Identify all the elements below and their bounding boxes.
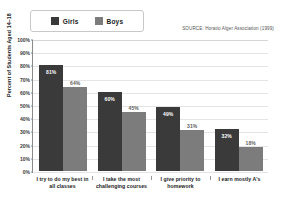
boys-swatch-icon bbox=[95, 17, 103, 25]
bar-girls[interactable]: 81% bbox=[39, 65, 63, 171]
bar-groups: 81%64%60%45%49%31%32%18% bbox=[34, 40, 268, 171]
y-axis-tick-label: 30% bbox=[20, 129, 30, 135]
y-axis-tick-mark bbox=[31, 53, 33, 54]
bar-value-label: 31% bbox=[180, 123, 204, 129]
x-axis-label: I take the mostchallenging courses bbox=[92, 176, 151, 190]
bar-value-label: 49% bbox=[156, 111, 180, 117]
legend-label-girls: Girls bbox=[63, 18, 79, 25]
x-axis-label: I try to do my best inall classes bbox=[33, 176, 92, 190]
plot-area: 0%10%20%30%40%50%60%70%80%90%100% 81%64%… bbox=[32, 40, 268, 173]
y-axis-tick-label: 10% bbox=[20, 156, 30, 162]
y-axis-tick-mark bbox=[31, 158, 33, 159]
bar-boys[interactable]: 18% bbox=[239, 147, 263, 171]
plot-wrapper: 0%10%20%30%40%50%60%70%80%90%100% 81%64%… bbox=[32, 40, 268, 173]
x-axis-label: I give priority tohomework bbox=[151, 176, 210, 190]
y-axis-tick-mark bbox=[31, 106, 33, 107]
y-axis-tick-label: 60% bbox=[20, 90, 30, 96]
y-axis-tick-mark bbox=[31, 66, 33, 67]
y-axis-tick-label: 80% bbox=[20, 63, 30, 69]
legend-item-boys: Boys bbox=[95, 17, 124, 25]
bar-boys[interactable]: 64% bbox=[63, 87, 87, 171]
bar-boys[interactable]: 45% bbox=[122, 112, 146, 171]
y-axis-title: Percent of Students Aged 14–18 bbox=[6, 0, 12, 120]
x-axis-tick-mark bbox=[210, 176, 211, 180]
bar-value-label: 45% bbox=[122, 105, 146, 111]
x-axis-category-labels: I try to do my best inall classesI take … bbox=[33, 176, 269, 190]
y-axis-tick-label: 70% bbox=[20, 77, 30, 83]
bar-girls[interactable]: 49% bbox=[156, 107, 180, 171]
bar-chart-figure: Girls Boys SOURCE: Horatio Alger Associa… bbox=[0, 0, 286, 211]
y-axis-tick-label: 90% bbox=[20, 50, 30, 56]
y-axis-tick-mark bbox=[31, 79, 33, 80]
y-axis-tick-mark bbox=[31, 132, 33, 133]
bar-value-label: 64% bbox=[63, 80, 87, 86]
y-axis-tick-label: 50% bbox=[20, 103, 30, 109]
x-axis-tick-mark bbox=[92, 176, 93, 180]
y-axis-tick-mark bbox=[31, 145, 33, 146]
bar-group: 60%45% bbox=[93, 40, 152, 171]
chart-legend: Girls Boys bbox=[30, 10, 144, 32]
bar-value-label: 18% bbox=[239, 140, 263, 146]
y-axis-tick-label: 0% bbox=[23, 169, 30, 175]
legend-label-boys: Boys bbox=[107, 18, 124, 25]
x-axis-tick-mark bbox=[151, 176, 152, 180]
bar-girls[interactable]: 32% bbox=[215, 129, 239, 171]
y-axis-tick-mark bbox=[31, 92, 33, 93]
bar-group: 32%18% bbox=[210, 40, 269, 171]
y-axis-tick-label: 20% bbox=[20, 143, 30, 149]
bar-group: 81%64% bbox=[34, 40, 93, 171]
gridline bbox=[33, 172, 268, 173]
y-axis-tick-label: 40% bbox=[20, 116, 30, 122]
bar-girls[interactable]: 60% bbox=[98, 92, 122, 171]
y-axis-tick-mark bbox=[31, 172, 33, 173]
x-axis-label: I earn mostly A's bbox=[210, 176, 269, 190]
bar-group: 49%31% bbox=[151, 40, 210, 171]
bar-boys[interactable]: 31% bbox=[180, 130, 204, 171]
y-axis-tick-label: 100% bbox=[17, 37, 30, 43]
y-axis-tick-mark bbox=[31, 119, 33, 120]
bar-value-label: 32% bbox=[215, 133, 239, 139]
girls-swatch-icon bbox=[51, 17, 59, 25]
y-axis-tick-mark bbox=[31, 40, 33, 41]
legend-item-girls: Girls bbox=[51, 17, 79, 25]
bar-value-label: 60% bbox=[98, 96, 122, 102]
bar-value-label: 81% bbox=[39, 69, 63, 75]
source-note: SOURCE: Horatio Alger Association (1999) bbox=[182, 26, 274, 31]
